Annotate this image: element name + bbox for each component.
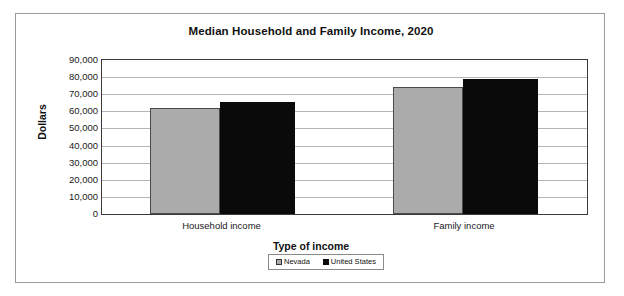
y-axis-tick-label: 80,000 bbox=[40, 71, 98, 82]
x-axis-title: Type of income bbox=[16, 240, 606, 252]
y-axis-tick-label: 0 bbox=[40, 208, 98, 219]
legend-entry-nevada: Nevada bbox=[276, 257, 310, 266]
y-axis-tick-label: 60,000 bbox=[40, 105, 98, 116]
chart-figure: Median Household and Family Income, 2020… bbox=[15, 13, 605, 283]
y-axis-tick-label: 10,000 bbox=[40, 190, 98, 201]
bars-layer bbox=[102, 60, 587, 214]
united-states-swatch bbox=[323, 259, 329, 265]
y-axis-tick-label: 20,000 bbox=[40, 173, 98, 184]
bar-nevada-1 bbox=[393, 87, 463, 214]
plot-area bbox=[101, 59, 588, 215]
bar-united-states-1 bbox=[463, 79, 538, 214]
y-axis-tick-label: 30,000 bbox=[40, 156, 98, 167]
x-axis-category-label: Family income bbox=[433, 220, 494, 231]
chart-title: Median Household and Family Income, 2020 bbox=[16, 25, 606, 37]
chart-legend: NevadaUnited States bbox=[268, 254, 384, 270]
legend-label: United States bbox=[331, 257, 376, 266]
y-axis-tick-label: 50,000 bbox=[40, 122, 98, 133]
x-axis-category-label: Household income bbox=[182, 220, 261, 231]
y-axis-tick-labels: 010,00020,00030,00040,00050,00060,00070,… bbox=[40, 59, 98, 213]
y-axis-tick-label: 70,000 bbox=[40, 88, 98, 99]
y-axis-tick-label: 40,000 bbox=[40, 139, 98, 150]
bar-nevada-0 bbox=[150, 108, 220, 214]
legend-entry-united-states: United States bbox=[323, 257, 376, 266]
legend-label: Nevada bbox=[284, 257, 310, 266]
nevada-swatch bbox=[276, 259, 282, 265]
y-axis-tick-label: 90,000 bbox=[40, 54, 98, 65]
bar-united-states-0 bbox=[220, 102, 295, 214]
